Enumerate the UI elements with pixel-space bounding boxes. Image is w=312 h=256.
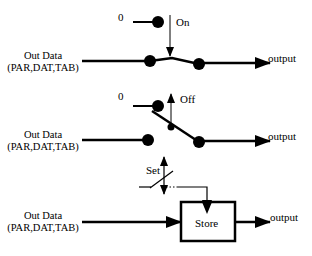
control-node	[152, 16, 164, 28]
set-label: Set	[146, 165, 160, 176]
output-label: output	[270, 212, 298, 223]
set-line-to-store	[178, 187, 207, 201]
input-node	[142, 134, 154, 146]
panel-store	[82, 157, 270, 241]
input-label-line2: (PAR,DAT,TAB)	[3, 141, 83, 153]
off-label: Off	[180, 94, 195, 105]
switch-contact-closed	[150, 58, 199, 64]
input-label: Out Data (PAR,DAT,TAB)	[3, 129, 83, 153]
input-label-line1: Out Data	[3, 50, 83, 62]
control-node	[152, 100, 164, 112]
pivot-node	[168, 124, 175, 131]
output-label: output	[268, 131, 296, 142]
input-label: Out Data (PAR,DAT,TAB)	[3, 210, 83, 234]
store-label: Store	[195, 218, 218, 229]
switch-contact-open	[152, 111, 199, 142]
zero-label: 0	[118, 91, 124, 102]
input-label-line1: Out Data	[3, 210, 83, 222]
input-label-line2: (PAR,DAT,TAB)	[3, 222, 83, 234]
input-label: Out Data (PAR,DAT,TAB)	[3, 50, 83, 74]
on-label: On	[176, 17, 189, 28]
input-label-line2: (PAR,DAT,TAB)	[3, 62, 83, 74]
panel-switch-off	[82, 94, 270, 148]
zero-label: 0	[118, 12, 124, 23]
diagram-canvas: 0 On Out Data (PAR,DAT,TAB) output 0 Off…	[0, 0, 312, 256]
output-label: output	[268, 53, 296, 64]
input-label-line1: Out Data	[3, 129, 83, 141]
